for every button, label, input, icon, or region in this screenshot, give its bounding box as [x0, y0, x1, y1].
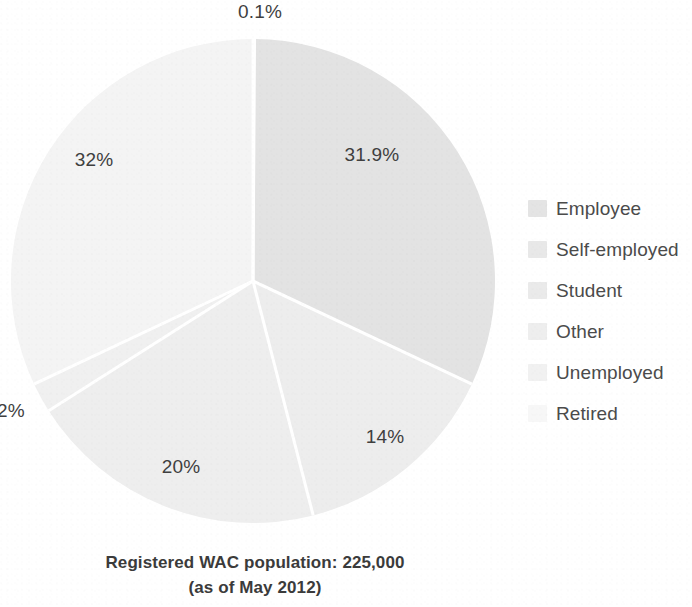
chart-caption: Registered WAC population: 225,000 (as o…	[0, 550, 510, 600]
caption-line-1: Registered WAC population: 225,000	[0, 550, 510, 575]
legend-item-label: Student	[556, 280, 622, 302]
legend-swatch-icon	[528, 241, 547, 258]
legend-item-label: Self-employed	[556, 239, 679, 261]
legend-swatch-icon	[528, 282, 547, 299]
legend-item-self-employed[interactable]: Self-employed	[528, 229, 692, 270]
pie-chart-area: 0.1%31.9%14%20%2%32%	[0, 0, 520, 540]
legend-swatch-icon	[528, 405, 547, 422]
pie-chart-svg	[0, 0, 520, 540]
chart-legend: EmployeeSelf-employedStudentOtherUnemplo…	[528, 188, 692, 434]
slice-value-label-retired: 32%	[75, 149, 114, 171]
slice-value-label-employee: 31.9%	[345, 144, 400, 166]
legend-item-label: Unemployed	[556, 362, 664, 384]
slice-value-label-student: 20%	[162, 456, 201, 478]
legend-item-label: Employee	[556, 198, 641, 220]
legend-item-unemployed[interactable]: Unemployed	[528, 352, 692, 393]
pie-separator	[253, 39, 255, 281]
slice-value-label-unemployed: 0.1%	[238, 1, 282, 23]
pie-chart-figure: 0.1%31.9%14%20%2%32% EmployeeSelf-employ…	[0, 0, 692, 607]
legend-item-retired[interactable]: Retired	[528, 393, 692, 434]
legend-swatch-icon	[528, 364, 547, 381]
legend-item-label: Retired	[556, 403, 618, 425]
slice-value-label-other: 2%	[0, 400, 25, 422]
legend-swatch-icon	[528, 200, 547, 217]
caption-line-2: (as of May 2012)	[0, 575, 510, 600]
legend-item-label: Other	[556, 321, 604, 343]
legend-item-employee[interactable]: Employee	[528, 188, 692, 229]
slice-value-label-self-employed: 14%	[366, 426, 405, 448]
legend-item-other[interactable]: Other	[528, 311, 692, 352]
legend-swatch-icon	[528, 323, 547, 340]
legend-item-student[interactable]: Student	[528, 270, 692, 311]
